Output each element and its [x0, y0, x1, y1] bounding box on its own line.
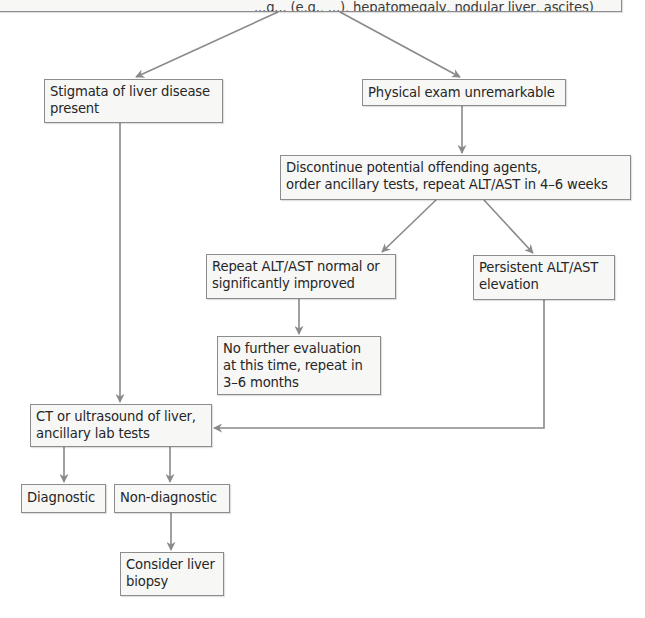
node-non-diagnostic: Non-diagnostic [114, 484, 230, 513]
node-ct-ultrasound: CT or ultrasound of liver, ancillary lab… [30, 404, 212, 447]
node-stigmata-present: Stigmata of liver disease present [44, 79, 223, 123]
node-physical-exam-unremarkable: Physical exam unremarkable [362, 79, 566, 106]
node-diagnostic: Diagnostic [21, 484, 106, 513]
edge-top-to-stigmata [136, 12, 278, 77]
node-discontinue-agents: Discontinue potential offending agents, … [280, 155, 631, 200]
edge-discontinue-to-persistent [484, 200, 533, 253]
node-no-further-evaluation: No further evaluation at this time, repe… [217, 336, 381, 395]
edge-discontinue-to-repeat [382, 200, 436, 252]
node-persistent-elevation: Persistent ALT/AST elevation [473, 255, 615, 300]
flowchart-canvas: ...g... (e.g., ...), hepatomegaly, nodul… [0, 0, 645, 618]
node-repeat-normal: Repeat ALT/AST normal or significantly i… [206, 254, 396, 299]
node-top-criteria: ...g... (e.g., ...), hepatomegaly, nodul… [0, 0, 622, 12]
node-consider-liver-biopsy: Consider liver biopsy [120, 552, 224, 596]
node-top-label: ...g... (e.g., ...), hepatomegaly, nodul… [254, 0, 594, 12]
edge-top-to-physical [340, 12, 460, 77]
